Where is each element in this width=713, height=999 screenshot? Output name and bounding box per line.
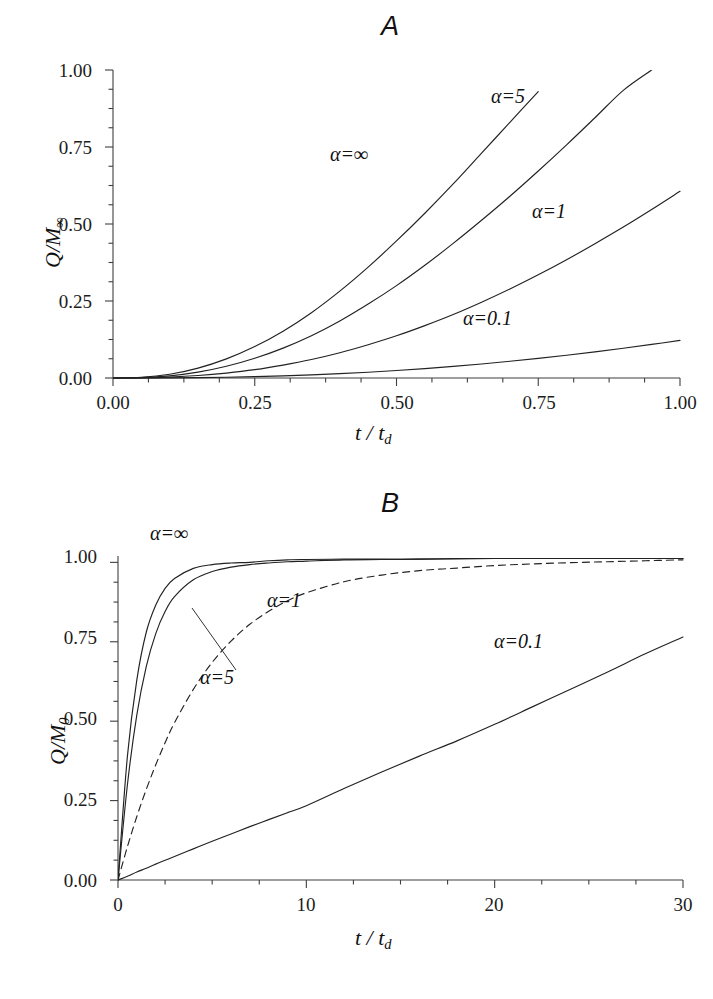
panel-a-y-axis-title-main: Q/M xyxy=(40,228,65,268)
panel-a-curve-label-alpha-1: α=1 xyxy=(532,200,566,223)
panel-b-ytick-0.25: 0.25 xyxy=(27,789,97,811)
curve-1 xyxy=(113,191,680,378)
curve-5 xyxy=(118,559,683,880)
panel-a: A 1.00 0.75 0.50 0.25 0.00 0.00 0.25 0.5… xyxy=(0,0,713,470)
panel-a-xtick-0.75: 0.75 xyxy=(504,392,574,414)
panel-a-x-axis-title-main: t / t xyxy=(355,420,384,445)
panel-a-curve-label-alpha-5: α=5 xyxy=(491,85,525,108)
panel-b-y-axis-title-sub: 0 xyxy=(56,717,72,724)
panel-b-xtick-0: 0 xyxy=(83,894,153,916)
panel-b-curve-label-alpha-inf: α=∞ xyxy=(150,522,188,545)
panel-a-ytick-0.00: 0.00 xyxy=(22,368,92,390)
curve-5 xyxy=(113,70,652,378)
panel-b-x-axis-title-sub: d xyxy=(384,936,391,952)
panel-a-xtick-0.25: 0.25 xyxy=(220,392,290,414)
panel-b-x-axis-title: t / td xyxy=(355,925,392,953)
panel-a-curve-label-alpha-0.1: α=0.1 xyxy=(463,307,512,330)
panel-b-curve-label-alpha-0.1: α=0.1 xyxy=(494,630,543,653)
panel-a-y-axis-title: Q/M∞ xyxy=(40,217,68,268)
panel-a-xtick-1.00: 1.00 xyxy=(645,392,713,414)
panel-b-ytick-0.00: 0.00 xyxy=(27,870,97,892)
panel-b-curve-label-alpha-5: α=5 xyxy=(200,666,234,689)
panel-b-y-axis-title-main: Q/M xyxy=(45,725,70,765)
panel-a-ytick-1.00: 1.00 xyxy=(22,60,92,82)
panel-b: B 1.00 0.75 0.50 0.25 0.00 0 10 20 30 Q/… xyxy=(0,470,713,999)
panel-a-xtick-0.50: 0.50 xyxy=(362,392,432,414)
curve- xyxy=(113,92,538,378)
panel-b-ytick-0.75: 0.75 xyxy=(27,627,97,649)
panel-a-x-axis-title: t / td xyxy=(355,420,392,448)
panel-b-curve-label-alpha-1: α=1 xyxy=(267,589,301,612)
panel-a-x-axis-title-sub: d xyxy=(384,431,391,447)
panel-b-y-axis-title: Q/M0 xyxy=(45,717,73,765)
curve- xyxy=(118,558,683,880)
panel-b-xtick-30: 30 xyxy=(648,894,713,916)
panel-a-curve-label-alpha-inf: α=∞ xyxy=(330,143,368,166)
panel-b-ytick-1.00: 1.00 xyxy=(27,546,97,568)
panel-b-xtick-20: 20 xyxy=(459,894,529,916)
panel-a-ytick-0.75: 0.75 xyxy=(22,137,92,159)
panel-b-plot-area xyxy=(0,470,713,999)
panel-a-y-axis-title-sub: ∞ xyxy=(51,217,67,227)
panel-b-x-axis-title-main: t / t xyxy=(355,925,384,950)
curve-1 xyxy=(118,560,683,880)
panel-b-xtick-10: 10 xyxy=(271,894,341,916)
panel-a-ytick-0.25: 0.25 xyxy=(22,291,92,313)
panel-a-xtick-0.00: 0.00 xyxy=(78,392,148,414)
